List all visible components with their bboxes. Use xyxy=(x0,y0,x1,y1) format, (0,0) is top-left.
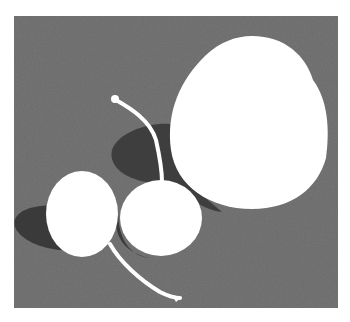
left-cherry xyxy=(46,171,118,257)
upper-stem-tip xyxy=(111,95,119,103)
right-cherry xyxy=(120,180,202,256)
still-life-painting xyxy=(0,0,350,322)
